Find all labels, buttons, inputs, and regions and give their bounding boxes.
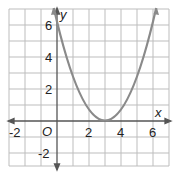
x-tick-2: 2	[85, 125, 92, 140]
coordinate-plane: y x O -2 2 4 6 -2 2 4 6	[0, 0, 176, 176]
y-tick-4: 4	[45, 50, 52, 65]
y-tick--2: -2	[38, 146, 50, 161]
y-tick-2: 2	[45, 82, 52, 97]
x-tick--2: -2	[9, 125, 21, 140]
origin-label: O	[42, 124, 52, 139]
x-tick-4: 4	[117, 125, 124, 140]
labels: y x O -2 2 4 6 -2 2 4 6	[9, 7, 162, 161]
x-tick-6: 6	[149, 125, 156, 140]
grid	[9, 9, 169, 166]
y-tick-6: 6	[45, 18, 52, 33]
x-axis-label: x	[154, 105, 162, 120]
